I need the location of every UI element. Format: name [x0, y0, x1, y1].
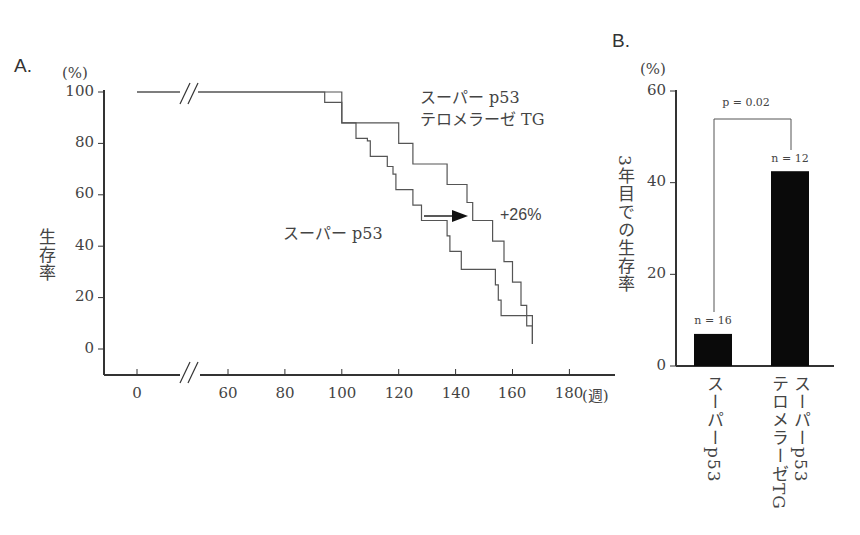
panel-b-y-unit: (%): [640, 60, 666, 78]
panel-a-xtick: 0: [122, 384, 152, 402]
panel-a-xtick: 120: [379, 384, 419, 402]
bar-category-label: スーパーp53: [702, 375, 727, 483]
panel-a-xtick: 60: [213, 384, 243, 402]
panel-a-ytick: 0: [64, 339, 94, 357]
panel-b-ytick: 40: [636, 172, 666, 190]
panel-a-ytick: 100: [64, 82, 94, 100]
panel-a-y-axis-label: 生存率: [34, 228, 59, 282]
curve-break-gap: [180, 85, 198, 99]
panel-a-x-unit: (週): [582, 384, 609, 405]
panel-b-label: B.: [612, 30, 630, 52]
panel-a-ytick: 60: [64, 184, 94, 202]
panel-a-xtick: 80: [270, 384, 300, 402]
panel-b-ytick: 0: [636, 356, 666, 374]
figure-canvas: [0, 0, 860, 535]
series-label-tg-line2: テロメラーゼ TG: [420, 106, 545, 130]
series-label-tg-line1: スーパー p53: [420, 84, 520, 108]
panel-b-ytick: 60: [636, 81, 666, 99]
series-label-p53: スーパー p53: [283, 220, 383, 244]
panel-a-ytick: 20: [64, 287, 94, 305]
panel-a-xtick: 100: [322, 384, 362, 402]
bar-2: [771, 171, 809, 366]
bar-category-label-line1: スーパーp53: [789, 375, 814, 483]
bar-1: [694, 334, 732, 366]
panel-b-y-axis-label: 3年目での生存率: [613, 155, 638, 293]
panel-a-ytick: 40: [64, 236, 94, 254]
bar-n-label: n = 16: [688, 314, 738, 327]
bar-category-label-line2: テロメラーゼTG: [767, 375, 792, 510]
panel-a-ytick: 80: [64, 133, 94, 151]
panel-a-y-unit: (%): [62, 64, 88, 82]
improvement-annotation: +26%: [500, 206, 541, 224]
panel-a-label: A.: [14, 55, 32, 77]
bar-n-label: n = 12: [765, 152, 815, 165]
panel-b-ytick: 20: [636, 264, 666, 282]
panel-a-xtick: 140: [436, 384, 476, 402]
significance-label: p = 0.02: [716, 96, 776, 109]
arrow-head-icon: [452, 210, 468, 222]
panel-a-xtick: 160: [492, 384, 532, 402]
